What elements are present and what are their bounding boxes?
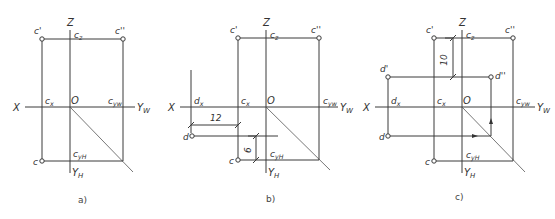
projection-label-cz: cz (270, 30, 279, 41)
arrow-right-icon (472, 134, 478, 138)
dimension-6: 6 (243, 133, 259, 163)
point-d (190, 134, 194, 138)
projection-label-cyH: cyH (73, 149, 87, 161)
caption-b: b) (266, 194, 275, 204)
point-cpp (317, 36, 321, 40)
point-label: c'' (505, 25, 515, 35)
point-cpp (121, 37, 125, 41)
axis-label-yw: YW (340, 102, 354, 115)
point-cp (432, 36, 436, 40)
point-label: c'' (115, 26, 125, 36)
axis-label-z: Z (458, 17, 467, 28)
axis-label-yw: YW (537, 102, 551, 115)
point-label: c' (230, 25, 237, 35)
svg-text:10: 10 (439, 54, 449, 66)
dimension-10: 10 (439, 35, 456, 80)
svg-text:12: 12 (210, 113, 222, 123)
projection-label-cyw: cyw (516, 96, 531, 108)
axis-label-yw: YW (137, 102, 151, 115)
origin-label: O (463, 95, 471, 106)
point-dp (386, 75, 390, 79)
caption-c: c) (455, 192, 463, 202)
axis-label-z: Z (66, 17, 75, 28)
projection-label-cyH: cyH (270, 149, 284, 161)
constant-line-45deg (462, 107, 525, 172)
panel-b: XZOYWYH126czcxdxcywcyHc'c''cdb) (167, 17, 354, 204)
point-cpp (511, 36, 515, 40)
axis-label-yh: YH (268, 167, 280, 180)
point-label: c (229, 156, 234, 166)
projection-label-dx: dx (391, 96, 401, 107)
point-cp (40, 37, 44, 41)
axis-label-z: Z (262, 17, 271, 28)
caption-a: a) (78, 195, 87, 205)
orthographic-projection-figure: XZOYWYHczcxcywcyHc'c''ca)XZOYWYH126czcxd… (0, 0, 555, 219)
point-cp (236, 36, 240, 40)
constant-line-45deg (70, 107, 133, 172)
point-label: c'' (311, 25, 321, 35)
point-dpp (489, 75, 493, 79)
panel-a: XZOYWYHczcxcywcyHc'c''ca) (12, 17, 151, 205)
dimension-12: 12 (188, 113, 241, 128)
point-label: d (379, 132, 385, 142)
point-label: d' (380, 64, 388, 74)
point-label: c (425, 157, 430, 167)
svg-text:6: 6 (243, 147, 253, 153)
point-c (236, 158, 240, 162)
point-label: c (33, 157, 38, 167)
projection-label-cx: cx (45, 96, 54, 107)
point-label: c' (34, 26, 41, 36)
point-d (386, 134, 390, 138)
axis-label-yh: YH (464, 167, 476, 180)
projection-label-cyw: cyw (323, 96, 338, 108)
projection-label-cx: cx (437, 96, 446, 107)
panel-c: XZOYWYH10czcxdxcywcyHc'c''cd'd''dc) (362, 17, 551, 202)
axis-label-x: X (167, 102, 176, 113)
point-label: c' (426, 25, 433, 35)
projection-label-cyH: cyH (466, 150, 480, 162)
origin-label: O (267, 95, 275, 106)
point-c (40, 159, 44, 163)
point-label: d'' (495, 71, 506, 81)
axis-label-x: X (12, 102, 21, 113)
constant-line-45deg (266, 107, 330, 170)
arrow-up-icon (489, 118, 493, 124)
point-c (432, 159, 436, 163)
axis-label-yh: YH (72, 167, 84, 180)
projection-label-cz: cz (74, 30, 83, 41)
projection-label-cz: cz (466, 30, 475, 41)
origin-label: O (71, 95, 79, 106)
projection-label-dx: dx (194, 96, 204, 107)
point-label: d (183, 132, 189, 142)
axis-label-x: X (362, 102, 371, 113)
projection-label-cyw: cyw (108, 96, 123, 108)
projection-label-cx: cx (241, 96, 250, 107)
